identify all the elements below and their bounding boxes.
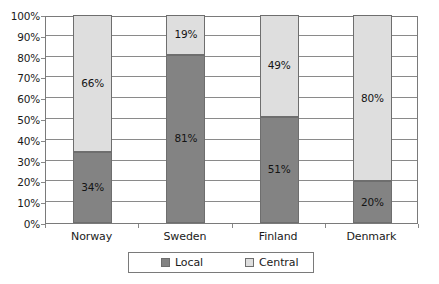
bar-value-label: 34%	[81, 182, 104, 193]
plot-area: 34%66%81%19%51%49%20%80%	[45, 16, 418, 224]
legend-label: Local	[175, 257, 203, 269]
bar-group[interactable]: 20%80%	[353, 17, 392, 223]
bar-value-label: 19%	[175, 29, 198, 40]
bar-group[interactable]: 81%19%	[166, 17, 205, 223]
y-tick-label: 0%	[0, 219, 40, 230]
x-tick-mark	[232, 224, 233, 228]
y-tick-label: 20%	[0, 177, 40, 188]
y-tick-label: 90%	[0, 32, 40, 43]
x-category-label: Finland	[233, 230, 323, 243]
x-tick-mark	[418, 224, 419, 228]
legend-label: Central	[259, 257, 298, 269]
bar-segment-central[interactable]: 66%	[73, 15, 112, 152]
y-tick-label: 70%	[0, 73, 40, 84]
bar-segment-local[interactable]: 34%	[73, 152, 112, 223]
bar-value-label: 51%	[268, 164, 291, 175]
bar-segment-central[interactable]: 80%	[353, 15, 392, 181]
bar-value-label: 66%	[81, 78, 104, 89]
bar-value-label: 81%	[175, 133, 198, 144]
bar-group[interactable]: 51%49%	[260, 17, 299, 223]
x-tick-mark	[138, 224, 139, 228]
x-category-label: Sweden	[140, 230, 230, 243]
y-tick-label: 30%	[0, 156, 40, 167]
bar-stack[interactable]: 34%66%	[73, 17, 112, 223]
legend-swatch-icon	[161, 258, 170, 267]
x-tick-mark	[325, 224, 326, 228]
y-tick-label: 50%	[0, 115, 40, 126]
chart-legend: LocalCentral	[128, 252, 314, 273]
bar-segment-local[interactable]: 51%	[260, 117, 299, 223]
legend-entry-local[interactable]: Local	[161, 257, 203, 269]
bar-segment-local[interactable]: 81%	[166, 55, 205, 223]
y-tick-label: 10%	[0, 198, 40, 209]
bar-value-label: 80%	[361, 93, 384, 104]
legend-swatch-icon	[245, 258, 254, 267]
y-tick-label: 60%	[0, 94, 40, 105]
bar-value-label: 49%	[268, 60, 291, 71]
legend-entry-central[interactable]: Central	[245, 257, 298, 269]
x-category-label: Denmark	[326, 230, 416, 243]
bar-value-label: 20%	[361, 197, 384, 208]
bar-segment-central[interactable]: 19%	[166, 15, 205, 55]
bar-stack[interactable]: 20%80%	[353, 17, 392, 223]
bar-segment-local[interactable]: 20%	[353, 181, 392, 223]
x-tick-mark	[45, 224, 46, 228]
y-axis: 0%10%20%30%40%50%60%70%80%90%100%	[0, 16, 40, 224]
bar-stack[interactable]: 81%19%	[166, 17, 205, 223]
stacked-bar-chart: 0%10%20%30%40%50%60%70%80%90%100% 34%66%…	[0, 0, 439, 284]
bar-segment-central[interactable]: 49%	[260, 15, 299, 117]
y-tick-label: 40%	[0, 136, 40, 147]
y-tick-label: 80%	[0, 52, 40, 63]
bar-group[interactable]: 34%66%	[73, 17, 112, 223]
y-tick-label: 100%	[0, 11, 40, 22]
bar-stack[interactable]: 51%49%	[260, 17, 299, 223]
x-category-label: Norway	[47, 230, 137, 243]
